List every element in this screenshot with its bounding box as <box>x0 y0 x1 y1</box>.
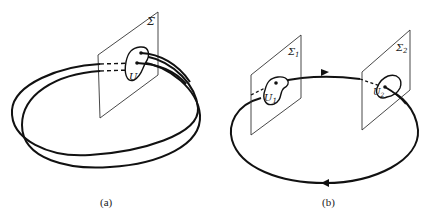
diagram-canvas: Σ U Σ1 <box>0 0 429 222</box>
direction-arrow-top <box>321 69 329 76</box>
region-label-u: U <box>129 71 138 82</box>
panel-a: Σ U <box>12 12 200 168</box>
direction-arrow-bottom <box>321 179 329 187</box>
section-label-sigma-1: Σ1 <box>287 46 300 59</box>
section-label-sigma: Σ <box>146 15 155 28</box>
crossing-point-u1 <box>274 81 278 85</box>
figure: Σ U Σ1 <box>0 0 429 222</box>
orbit-top-arc <box>278 77 360 82</box>
orbit-loop-inner <box>22 62 200 168</box>
orbit-loop <box>231 88 418 183</box>
caption-b: (b) <box>322 196 335 208</box>
caption-a: (a) <box>100 196 112 208</box>
panel-b: Σ1 Σ2 U1 U2 <box>231 30 418 187</box>
section-label-sigma-2: Σ2 <box>395 42 408 55</box>
